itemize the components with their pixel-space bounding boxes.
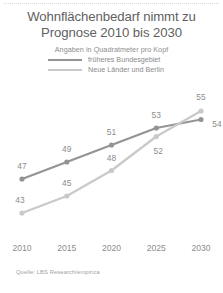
x-axis-tick-label: 2015: [57, 243, 76, 253]
chart-header: Wohnflächenbedarf nimmt zu Prognose 2010…: [0, 9, 223, 54]
x-axis: 20102015202020252030: [0, 243, 223, 259]
data-point-marker: [19, 210, 24, 215]
chart-subtitle: Angaben in Quadratmeter pro Kopf: [0, 45, 223, 54]
infographic-card: Wohnflächenbedarf nimmt zu Prognose 2010…: [0, 0, 223, 293]
legend-label-west: früheres Bundesgebiet: [88, 56, 160, 64]
x-axis-tick-label: 2025: [147, 243, 166, 253]
data-point-label: 51: [107, 128, 116, 137]
data-point-label: 55: [196, 93, 205, 102]
data-point-marker: [198, 108, 203, 113]
data-point-label: 45: [62, 179, 71, 188]
data-point-label: 49: [62, 145, 71, 154]
legend-swatch-east: [48, 69, 82, 71]
data-point-label: 53: [152, 111, 161, 120]
legend-label-east: Neue Länder und Berlin: [88, 66, 164, 74]
data-point-marker: [154, 125, 159, 130]
legend-item-west: früheres Bundesgebiet: [0, 55, 223, 65]
data-point-marker: [109, 142, 114, 147]
data-point-marker: [64, 159, 69, 164]
data-point-marker: [198, 117, 203, 122]
data-point-label: 43: [15, 196, 24, 205]
data-point-label: 54: [212, 119, 221, 128]
top-divider: [4, 3, 219, 5]
legend-item-east: Neue Länder und Berlin: [0, 65, 223, 75]
data-point-label: 47: [17, 162, 26, 171]
x-axis-tick-label: 2020: [102, 243, 121, 253]
data-point-marker: [19, 176, 24, 181]
page-title-line-2: Prognose 2010 bis 2030: [0, 25, 223, 41]
chart-legend: früheres Bundesgebiet Neue Länder und Be…: [0, 55, 223, 75]
data-point-marker: [64, 193, 69, 198]
data-point-label: 52: [154, 146, 163, 155]
data-point-label: 48: [107, 153, 116, 162]
page-title-line-1: Wohnflächenbedarf nimmt zu: [0, 9, 223, 25]
x-axis-tick-label: 2030: [191, 243, 210, 253]
legend-swatch-west: [48, 59, 82, 61]
data-point-marker: [154, 134, 159, 139]
data-point-marker: [109, 168, 114, 173]
line-chart-plot-area: 47495153544345485255: [0, 78, 223, 243]
x-axis-tick-label: 2010: [12, 243, 31, 253]
source-note: Quelle: LBS Research/empirica: [16, 268, 100, 276]
